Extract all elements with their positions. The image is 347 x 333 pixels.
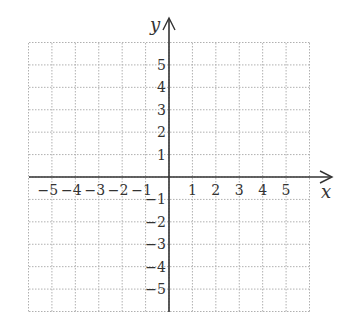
x-tick-label: −2: [108, 182, 129, 198]
x-tick-label: 2: [211, 182, 220, 198]
x-tick-label: 4: [258, 182, 267, 198]
y-axis-label: y: [149, 14, 161, 35]
x-axis-label: x: [321, 181, 331, 202]
x-tick-label: −4: [61, 182, 82, 198]
y-tick-label: 2: [157, 124, 166, 140]
x-tick-label: 5: [282, 182, 291, 198]
y-tick-label: −1: [145, 191, 166, 207]
x-tick-label: −3: [84, 182, 105, 198]
y-tick-label: 4: [157, 79, 166, 95]
x-tick-label: −5: [38, 182, 59, 198]
y-tick-label: −3: [145, 236, 166, 252]
y-tick-label: 1: [157, 147, 166, 163]
y-tick-label: 3: [157, 102, 166, 118]
y-tick-label: −4: [145, 259, 166, 275]
x-tick-label: 1: [188, 182, 197, 198]
y-tick-label: −5: [145, 281, 166, 297]
x-tick-label: 3: [235, 182, 244, 198]
y-tick-label: −2: [145, 214, 166, 230]
coordinate-plane: x y −5−4−3−2−112345 54321−1−2−3−4−5: [0, 0, 347, 333]
y-tick-label: 5: [157, 57, 166, 73]
